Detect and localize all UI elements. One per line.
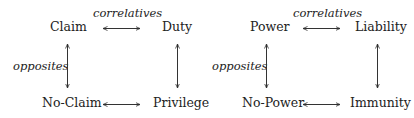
arrows-layer <box>0 0 414 118</box>
